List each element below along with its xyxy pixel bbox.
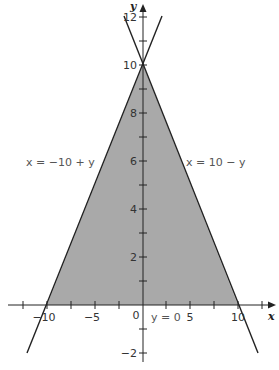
x-tick-neg10: −10 bbox=[32, 311, 55, 324]
x-tick-neg5: −5 bbox=[84, 311, 100, 324]
y-tick-2: 2 bbox=[130, 251, 137, 264]
y-tick-6: 6 bbox=[130, 155, 137, 168]
eq-right-label: x = 10 − y bbox=[186, 156, 246, 169]
chart: 12 10 8 6 4 2 −2 −10 −5 0 5 10 y x x = −… bbox=[0, 0, 279, 370]
x-tick-5: 5 bbox=[187, 311, 194, 324]
x-axis-label: x bbox=[267, 310, 275, 323]
y-axis-arrow-icon bbox=[140, 4, 147, 12]
x-tick-0: 0 bbox=[133, 309, 140, 322]
eq-left-label: x = −10 + y bbox=[26, 156, 95, 169]
y-tick-10: 10 bbox=[123, 59, 137, 72]
x-axis-arrow-icon bbox=[268, 302, 276, 309]
eq-bottom-label: y = 0 bbox=[151, 311, 181, 324]
y-tick-8: 8 bbox=[130, 107, 137, 120]
y-tick-neg2: −2 bbox=[121, 347, 137, 360]
y-tick-4: 4 bbox=[130, 203, 137, 216]
x-tick-10: 10 bbox=[231, 311, 245, 324]
